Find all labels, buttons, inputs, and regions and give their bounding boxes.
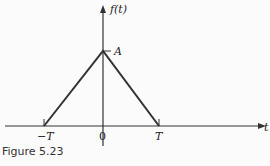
triangle-pulse-diagram: f(t) A t −T 0 T [0,0,270,166]
pos-t-label: T [155,130,164,143]
zero-label: 0 [99,130,106,143]
t-axis-label: t [264,121,269,134]
neg-t-label: −T [37,130,55,143]
function-label: f(t) [109,3,127,16]
f-axis-arrow-icon [100,5,106,13]
peak-label: A [113,45,122,58]
figure-caption: Figure 5.23 [2,145,64,158]
triangle-pulse [44,51,159,126]
